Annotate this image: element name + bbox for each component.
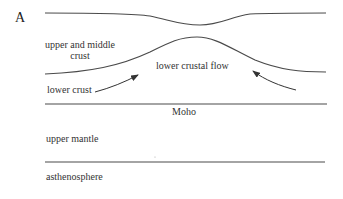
upper-middle-crust-label: upper and middle crust [30,39,130,61]
surface-line [45,13,326,25]
moho-label: Moho [172,106,196,117]
flow-arrow-left [95,75,138,92]
lower-crust-label: lower crust [47,84,92,95]
speck-mark [154,156,155,157]
upper-middle-crust-label-line2: crust [30,50,130,61]
flow-arrow-right [253,71,296,90]
lower-crustal-flow-label: lower crustal flow [156,60,229,71]
upper-mantle-label: upper mantle [46,133,98,144]
panel-label: A [15,11,25,25]
crustal-flow-diagram [0,0,343,199]
asthenosphere-label: asthenosphere [46,171,103,182]
upper-middle-crust-label-line1: upper and middle [30,39,130,50]
